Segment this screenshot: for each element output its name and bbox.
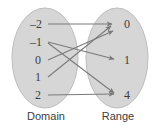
range-node-0: 0	[119, 18, 135, 30]
domain-node-neg2: –2	[26, 18, 46, 30]
domain-node-2: 2	[30, 89, 46, 101]
range-node-1: 1	[119, 54, 135, 66]
domain-caption: Domain	[16, 110, 76, 122]
range-caption: Range	[90, 110, 146, 122]
domain-node-1: 1	[30, 71, 46, 83]
mapping-diagram-figure: –2 –1 0 1 2 0 1 4 Domain Range	[0, 0, 155, 128]
range-ellipse	[86, 8, 148, 108]
domain-node-0: 0	[30, 54, 46, 66]
domain-node-neg1: –1	[26, 36, 46, 48]
range-node-4: 4	[119, 89, 135, 101]
